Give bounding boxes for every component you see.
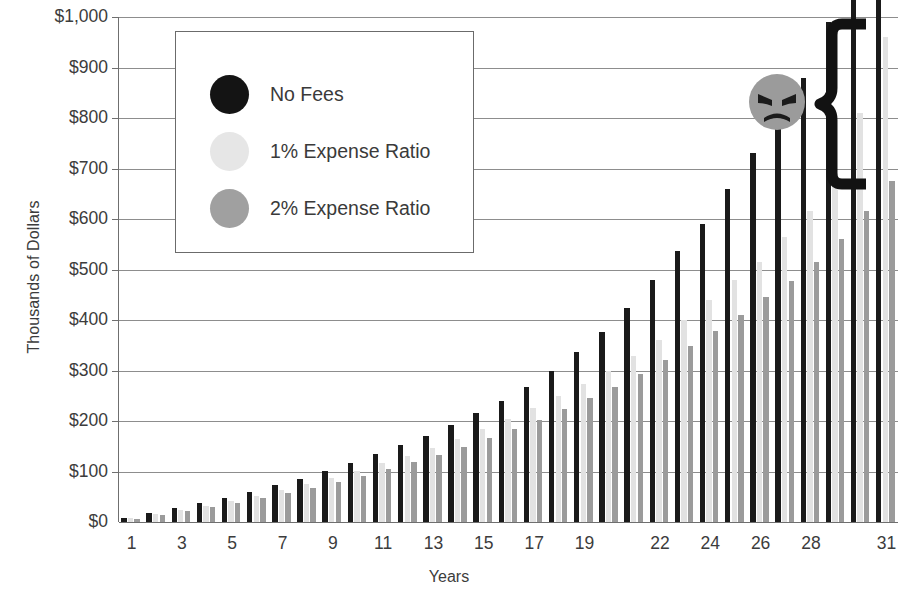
bar <box>713 331 718 522</box>
bar <box>121 518 126 522</box>
bar <box>801 78 806 522</box>
y-tick-mark <box>112 17 119 18</box>
x-tick-label: 26 <box>751 533 770 554</box>
y-tick-mark <box>112 320 119 321</box>
bar <box>423 436 428 522</box>
x-tick-label: 22 <box>650 533 669 554</box>
bar <box>638 374 643 522</box>
y-tick-label: $400 <box>20 311 108 329</box>
bar <box>461 447 466 522</box>
y-tick-label: $900 <box>20 59 108 77</box>
bar <box>329 478 334 522</box>
legend-swatch-1-percent <box>210 132 249 171</box>
legend: No Fees 1% Expense Ratio 2% Expense Rati… <box>175 31 474 253</box>
bar-group <box>624 17 649 522</box>
bar <box>574 352 579 522</box>
y-tick-label: $300 <box>20 362 108 380</box>
x-tick-label: 24 <box>701 533 720 554</box>
bar-group <box>650 17 675 522</box>
legend-label: 2% Expense Ratio <box>270 197 430 220</box>
bar <box>254 496 259 522</box>
y-tick-label: $200 <box>20 412 108 430</box>
bar <box>297 479 302 522</box>
bar <box>178 510 183 522</box>
bar <box>499 401 504 522</box>
bar <box>160 515 165 522</box>
bar <box>272 485 277 522</box>
gridline <box>119 522 898 523</box>
bar <box>624 308 629 522</box>
bar <box>235 503 240 522</box>
bar-group <box>700 17 725 522</box>
bar <box>883 37 888 522</box>
bar <box>732 280 737 522</box>
bar <box>279 490 284 522</box>
bar <box>185 511 190 522</box>
bar <box>524 387 529 522</box>
bar <box>228 501 233 522</box>
bar <box>197 503 202 522</box>
x-tick-label: 3 <box>177 533 187 554</box>
x-tick-label: 15 <box>474 533 493 554</box>
bar <box>260 498 265 522</box>
y-tick-mark <box>112 169 119 170</box>
y-tick-label: $100 <box>20 463 108 481</box>
bar <box>398 445 403 522</box>
y-tick-mark <box>112 472 119 473</box>
legend-item: 1% Expense Ratio <box>210 123 473 180</box>
y-tick-label: $1,000 <box>20 8 108 26</box>
bar <box>675 251 680 522</box>
bar <box>599 332 604 522</box>
bar-group <box>574 17 599 522</box>
bar <box>146 513 151 522</box>
y-tick-label: $500 <box>20 261 108 279</box>
bar <box>134 519 139 522</box>
bar <box>757 262 762 522</box>
bar <box>348 463 353 522</box>
bar <box>128 518 133 522</box>
bar <box>631 356 636 522</box>
y-axis-tick-labels: $0$100$200$300$400$500$600$700$800$900$1… <box>20 0 108 597</box>
bar <box>222 498 227 522</box>
fee-gap-brace-icon <box>812 18 866 190</box>
bar <box>530 408 535 522</box>
x-tick-label: 19 <box>575 533 594 554</box>
y-tick-label: $0 <box>20 513 108 531</box>
bar <box>656 340 661 522</box>
bar <box>304 484 309 522</box>
x-tick-label: 5 <box>227 533 237 554</box>
bar <box>411 462 416 522</box>
legend-swatch-no-fees <box>210 75 249 114</box>
bar-group <box>121 17 146 522</box>
bar <box>562 409 567 522</box>
x-tick-label: 17 <box>524 533 543 554</box>
bar <box>581 384 586 522</box>
bar <box>512 429 517 522</box>
x-tick-label: 28 <box>801 533 820 554</box>
bar <box>587 398 592 522</box>
bar <box>663 360 668 522</box>
bar <box>336 482 341 522</box>
bar <box>487 438 492 522</box>
bar <box>405 456 410 522</box>
bar-group <box>473 17 498 522</box>
y-tick-mark <box>112 371 119 372</box>
bar <box>688 346 693 522</box>
bar <box>706 300 711 522</box>
bar-group <box>725 17 750 522</box>
bar <box>738 315 743 522</box>
bar-group <box>524 17 549 522</box>
bar <box>285 493 290 522</box>
y-tick-mark <box>112 421 119 422</box>
bar-group <box>146 17 171 522</box>
bar-group <box>675 17 700 522</box>
bar <box>310 488 315 522</box>
y-tick-label: $600 <box>20 210 108 228</box>
bar <box>172 508 177 522</box>
bar <box>379 463 384 522</box>
bar <box>606 371 611 523</box>
bar <box>436 455 441 522</box>
bar-group <box>876 17 898 522</box>
bar <box>612 387 617 522</box>
bar <box>505 419 510 522</box>
